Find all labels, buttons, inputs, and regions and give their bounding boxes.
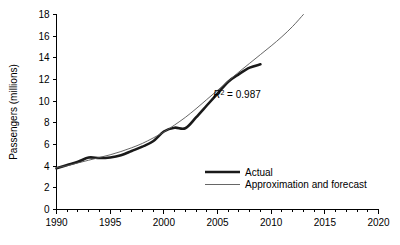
y-tick-label: 8 [44, 117, 50, 128]
annotation-r-symbol: R [213, 89, 220, 100]
legend-label: Actual [245, 167, 273, 178]
x-tick-label: 2015 [314, 217, 337, 228]
plot-background [0, 0, 400, 245]
annotation-group: R2 = 0.987 [213, 88, 261, 100]
annotation-r-squared: R2 = 0.987 [213, 88, 261, 100]
y-axis-title-group: Passengers (millions) [8, 64, 19, 160]
y-tick-label: 18 [38, 9, 50, 20]
x-tick-label: 2005 [206, 217, 229, 228]
y-tick-label: 6 [44, 139, 50, 150]
x-tick-label: 2020 [367, 217, 390, 228]
y-tick-label: 2 [44, 182, 50, 193]
annotation-value: = 0.987 [224, 89, 261, 100]
y-tick-label: 16 [38, 31, 50, 42]
x-tick-label: 1990 [45, 217, 68, 228]
y-tick-label: 0 [44, 204, 50, 215]
y-tick-label: 12 [38, 74, 50, 85]
x-tick-label: 2000 [153, 217, 176, 228]
y-axis-title: Passengers (millions) [8, 64, 19, 160]
y-tick-label: 10 [38, 96, 50, 107]
y-tick-label: 4 [44, 161, 50, 172]
x-tick-label: 2010 [260, 217, 283, 228]
legend-label: Approximation and forecast [245, 179, 367, 190]
y-tick-label: 14 [38, 52, 50, 63]
chart-container: 024681012141618 199019952000200520102015… [0, 0, 400, 245]
x-tick-label: 1995 [99, 217, 122, 228]
passengers-line-chart: 024681012141618 199019952000200520102015… [0, 0, 400, 245]
